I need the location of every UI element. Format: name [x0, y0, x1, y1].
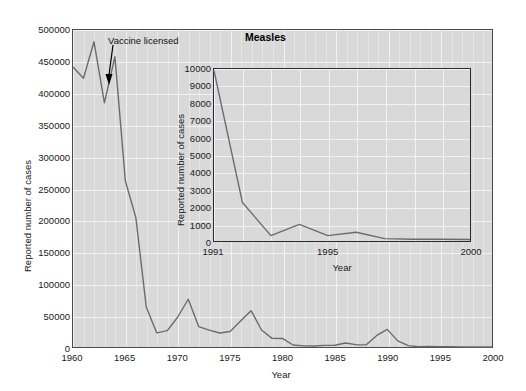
x-tick-label: 1965: [114, 352, 135, 363]
inset-series-line: [214, 69, 470, 241]
y-tick-label: 400000: [26, 87, 70, 98]
y-tick-label: 450000: [26, 55, 70, 66]
y-tick-label: 10000: [175, 63, 211, 74]
inset-plot-area: [213, 68, 471, 242]
x-tick-label: 1980: [272, 352, 293, 363]
inset-y-axis-title: Reported number of cases: [175, 114, 186, 226]
x-tick-label: 1960: [61, 352, 82, 363]
x-tick-label: 1995: [317, 246, 338, 257]
x-tick-label: 2000: [482, 352, 503, 363]
main-x-axis-title: Year: [271, 369, 290, 380]
x-tick-label: 2000: [460, 246, 481, 257]
y-tick-label: 50000: [26, 311, 70, 322]
measles-incidence-figure: 0500001000001500002000002500003000003500…: [0, 0, 526, 391]
x-tick-label: 1990: [377, 352, 398, 363]
down-arrow-icon: [100, 45, 122, 91]
chart-title: Measles: [245, 31, 286, 43]
x-tick-label: 1991: [202, 246, 223, 257]
x-tick-label: 1995: [430, 352, 451, 363]
main-y-axis-title: Reported number of cases: [22, 160, 33, 272]
y-tick-label: 500000: [26, 24, 70, 35]
y-tick-label: 350000: [26, 119, 70, 130]
y-tick-label: 8000: [175, 97, 211, 108]
inset-x-axis-title: Year: [332, 262, 351, 273]
y-tick-label: 100000: [26, 279, 70, 290]
x-tick-label: 1970: [167, 352, 188, 363]
data-line: [214, 71, 470, 240]
x-tick-label: 1975: [219, 352, 240, 363]
y-tick-label: 9000: [175, 80, 211, 91]
x-tick-label: 1985: [325, 352, 346, 363]
